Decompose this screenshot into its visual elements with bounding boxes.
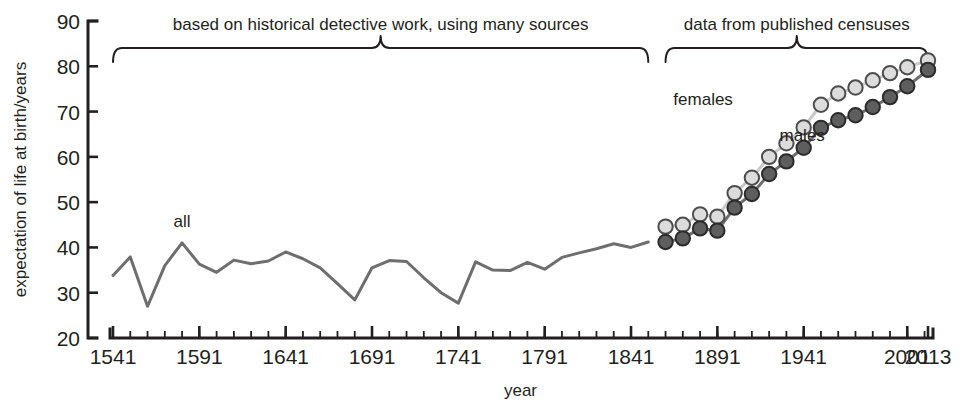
y-axis-spine xyxy=(88,21,97,338)
data-point-females xyxy=(762,150,776,164)
data-point-males xyxy=(831,113,845,127)
x-axis-tick-label: 1691 xyxy=(349,345,396,368)
annotation-bracket xyxy=(666,36,928,62)
data-point-males xyxy=(779,154,793,168)
data-point-males xyxy=(710,223,724,237)
data-point-males xyxy=(727,200,741,214)
data-point-females xyxy=(848,80,862,94)
data-point-males xyxy=(693,221,707,235)
data-point-males xyxy=(883,90,897,104)
y-axis-tick-label: 70 xyxy=(57,101,80,124)
tick-labels-group: 2030405060708090154115911641169117411791… xyxy=(57,10,952,368)
life-expectancy-chart: 2030405060708090154115911641169117411791… xyxy=(0,0,964,411)
series-line-all xyxy=(113,242,648,306)
x-axis-tick-label: 2013 xyxy=(905,345,952,368)
data-point-females xyxy=(814,98,828,112)
y-axis-title: expectation of life at birth/years xyxy=(11,62,30,297)
x-axis-tick-label: 1591 xyxy=(176,345,223,368)
data-point-males xyxy=(848,108,862,122)
data-point-females xyxy=(831,86,845,100)
brackets-group xyxy=(113,36,928,62)
y-axis-tick-label: 80 xyxy=(57,55,80,78)
series-label-males: males xyxy=(780,126,825,145)
data-point-males xyxy=(921,63,935,77)
y-axis-tick-label: 50 xyxy=(57,191,80,214)
tick-marks-group xyxy=(88,21,928,338)
series-label-females: females xyxy=(673,90,733,109)
y-axis-tick-label: 60 xyxy=(57,146,80,169)
data-point-males xyxy=(745,187,759,201)
bracket-annotations-group: based on historical detective work, usin… xyxy=(173,15,910,34)
data-point-males xyxy=(900,79,914,93)
x-axis-tick-label: 1791 xyxy=(521,345,568,368)
x-axis-tick-label: 1841 xyxy=(608,345,655,368)
annotation-label: data from published censuses xyxy=(684,15,910,34)
x-axis-tick-label: 1741 xyxy=(435,345,482,368)
data-point-females xyxy=(866,73,880,87)
data-point-males xyxy=(866,100,880,114)
data-point-females xyxy=(745,170,759,184)
y-axis-tick-label: 90 xyxy=(57,10,80,33)
annotation-bracket xyxy=(113,36,648,62)
data-point-females xyxy=(900,60,914,74)
data-point-females xyxy=(658,219,672,233)
data-series-group xyxy=(113,53,935,306)
data-point-males xyxy=(658,235,672,249)
data-point-males xyxy=(676,231,690,245)
y-axis-tick-label: 20 xyxy=(57,327,80,350)
x-axis-tick-label: 1641 xyxy=(262,345,309,368)
data-point-females xyxy=(727,186,741,200)
data-point-males xyxy=(762,167,776,181)
chart-canvas: 2030405060708090154115911641169117411791… xyxy=(0,0,964,411)
x-axis-title: year xyxy=(504,381,537,400)
data-point-females xyxy=(710,209,724,223)
x-axis-tick-label: 1891 xyxy=(694,345,741,368)
y-axis-tick-label: 30 xyxy=(57,282,80,305)
series-label-all: all xyxy=(174,212,191,231)
data-point-females xyxy=(883,66,897,80)
axes-group xyxy=(88,21,933,338)
x-axis-tick-label: 1541 xyxy=(90,345,137,368)
x-axis-tick-label: 1941 xyxy=(780,345,827,368)
data-point-females xyxy=(693,207,707,221)
annotation-label: based on historical detective work, usin… xyxy=(173,15,589,34)
data-point-females xyxy=(676,218,690,232)
y-axis-tick-label: 40 xyxy=(57,236,80,259)
